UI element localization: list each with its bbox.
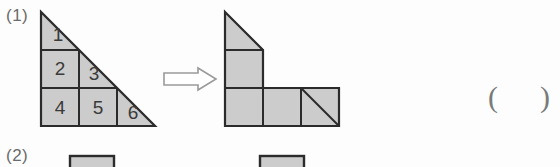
problem-2-shape-b [258, 154, 306, 167]
lshape-svg [222, 9, 358, 131]
problem-1-label: (1) [6, 6, 28, 26]
problem-2-right-figure-partial [258, 154, 306, 167]
piece-label-2: 2 [55, 58, 66, 79]
worksheet-page: (1) 1 2 3 4 5 6 [0, 0, 560, 167]
problem-2-rect-a [70, 156, 114, 167]
problem-2-left-figure-partial [68, 154, 116, 167]
piece-label-4: 4 [55, 97, 66, 118]
piece-label-6: 6 [128, 102, 139, 123]
piece-label-3: 3 [89, 63, 100, 84]
problem-2-shape-a [68, 154, 116, 167]
problem-2-label: (2) [6, 146, 28, 166]
triangle-svg: 1 2 3 4 5 6 [38, 9, 160, 131]
piece-label-5: 5 [93, 97, 104, 118]
arrow-outline-shape [164, 68, 216, 90]
paren-open: ( [488, 82, 498, 112]
transform-arrow [162, 66, 218, 92]
right-figure-lshape [222, 9, 358, 131]
piece-label-1: 1 [53, 24, 64, 45]
paren-close: ) [540, 82, 550, 112]
problem-2-rect-b [260, 156, 304, 167]
arrow-icon [162, 66, 218, 92]
answer-blank-parentheses[interactable]: ( ) [488, 80, 550, 114]
left-figure-triangle: 1 2 3 4 5 6 [38, 9, 160, 131]
